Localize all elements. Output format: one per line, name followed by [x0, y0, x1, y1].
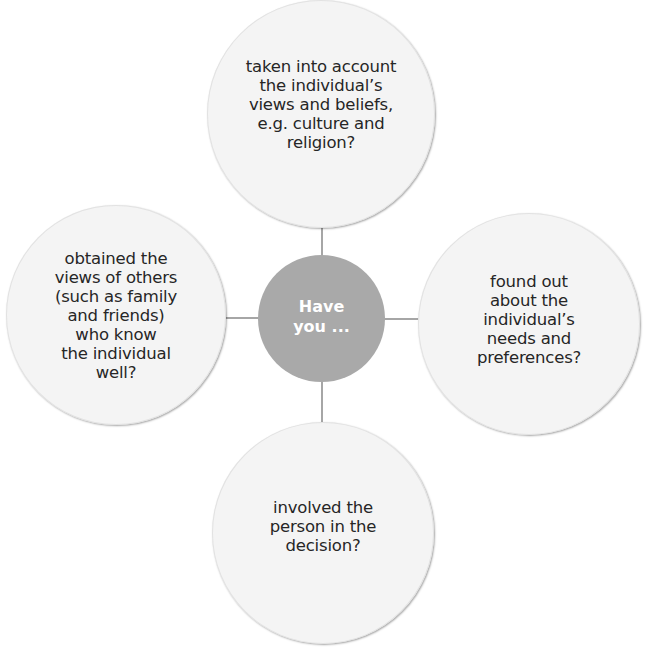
connector-top [321, 226, 323, 258]
bubble-bottom-text: involved the person in the decision? [270, 498, 377, 555]
bubble-bottom-line: decision? [270, 536, 377, 555]
connector-bottom [321, 380, 323, 422]
bubble-right-line: found out [477, 272, 581, 291]
bubble-right-line: individual’s [477, 310, 581, 329]
bubble-left-line: (such as family [55, 287, 178, 306]
bubble-top-line: religion? [246, 133, 396, 152]
bubble-left-line: and friends) [55, 306, 178, 325]
bubble-left-line: views of others [55, 268, 178, 287]
bubble-left-line: who know [55, 325, 178, 344]
bubble-right-text: found out about the individual’s needs a… [477, 272, 581, 367]
bubble-top-line: e.g. culture and [246, 114, 396, 133]
bubble-top-line: taken into account [246, 57, 396, 76]
bubble-left-line: well? [55, 363, 178, 382]
bubble-right: found out about the individual’s needs a… [418, 213, 640, 435]
bubble-left-line: obtained the [55, 249, 178, 268]
bubble-top: taken into account the individual’s view… [207, 0, 435, 228]
bubble-bottom-line: person in the [270, 517, 377, 536]
hub-line: you ... [293, 317, 350, 337]
connector-left [224, 317, 260, 319]
bubble-right-line: needs and [477, 329, 581, 348]
connector-right [384, 318, 420, 320]
bubble-top-text: taken into account the individual’s view… [246, 57, 396, 152]
bubble-left-line: the individual [55, 344, 178, 363]
bubble-left: obtained the views of others (such as fa… [6, 205, 226, 425]
bubble-bottom: involved the person in the decision? [212, 422, 434, 644]
hub-circle: Have you ... [258, 255, 385, 382]
hub-text: Have you ... [293, 297, 350, 337]
bubble-bottom-line: involved the [270, 498, 377, 517]
bubble-right-line: about the [477, 291, 581, 310]
bubble-top-line: the individual’s [246, 76, 396, 95]
bubble-left-text: obtained the views of others (such as fa… [55, 249, 178, 382]
bubble-top-line: views and beliefs, [246, 95, 396, 114]
bubble-right-line: preferences? [477, 348, 581, 367]
hub-line: Have [293, 297, 350, 317]
